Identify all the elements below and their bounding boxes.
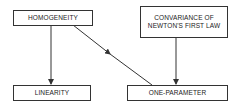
node-one-parameter: ONE-PARAMETER: [127, 85, 228, 101]
node-linearity-label: LINEARITY: [35, 89, 70, 97]
edge-homogeneity-to-one-parameter: [73, 25, 110, 54]
node-convariance-label-line2: NEWTON'S FIRST LAW: [148, 22, 220, 30]
node-homogeneity: HOMOGENEITY: [13, 10, 93, 26]
node-homogeneity-label: HOMOGENEITY: [28, 14, 78, 22]
edge-homogeneity-to-one-parameter-tail: [110, 54, 152, 85]
node-convariance-label-line1: CONVARIANCE OF: [154, 14, 213, 22]
node-convariance-of-newtons-first-law: CONVARIANCE OF NEWTON'S FIRST LAW: [140, 6, 228, 38]
node-one-parameter-label: ONE-PARAMETER: [149, 89, 207, 97]
node-linearity: LINEARITY: [13, 85, 91, 101]
